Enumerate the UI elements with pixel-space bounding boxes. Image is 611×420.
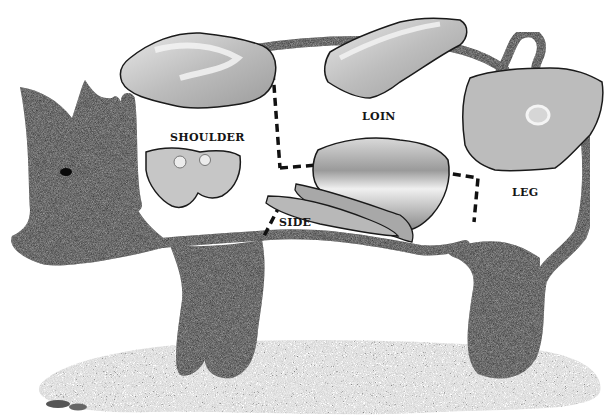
- shoulder-chop-bone: [200, 155, 211, 166]
- cut-label-leg: LEG: [512, 186, 538, 199]
- shoulder-chop-image: [146, 148, 240, 207]
- divider-shoulder-loin: [273, 72, 280, 168]
- leg-roast-bone: [527, 106, 549, 124]
- cut-label-shoulder: SHOULDER: [170, 131, 245, 144]
- divider-loin-side: [280, 165, 318, 168]
- cut-label-loin: LOIN: [362, 110, 396, 123]
- loin-chop-image: [325, 18, 467, 98]
- cut-label-side: SIDE: [279, 216, 311, 229]
- pig-eye-icon: [60, 168, 72, 176]
- pork-cuts-diagram: [0, 0, 611, 420]
- front-leg: [170, 240, 265, 378]
- ground-pebble: [69, 404, 87, 411]
- neck-outline: [128, 100, 135, 205]
- ground-pebble: [46, 400, 70, 408]
- shoulder-chop-bone: [174, 156, 186, 168]
